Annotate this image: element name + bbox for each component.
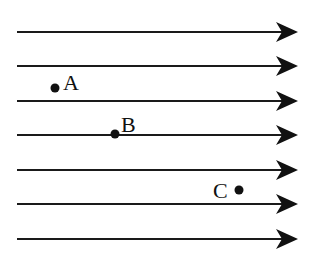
point-dot	[51, 84, 60, 93]
field-line	[17, 194, 298, 214]
points: ABC	[51, 70, 244, 203]
point-b: B	[111, 112, 136, 139]
point-dot	[235, 186, 244, 195]
point-label: B	[121, 112, 136, 137]
point-a: A	[51, 70, 80, 95]
point-label: C	[213, 178, 228, 203]
field-line	[17, 229, 298, 249]
field-line	[17, 160, 298, 180]
field-diagram: ABC	[0, 0, 309, 276]
field-line	[17, 125, 298, 145]
field-line	[17, 56, 298, 76]
field-line	[17, 22, 298, 42]
field-lines	[17, 22, 298, 249]
field-line	[17, 91, 298, 111]
point-dot	[111, 130, 120, 139]
point-label: A	[63, 70, 79, 95]
point-c: C	[213, 178, 244, 203]
